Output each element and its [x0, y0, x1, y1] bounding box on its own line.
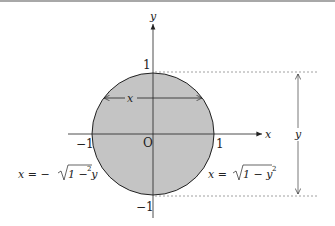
svg-text:2: 2	[272, 165, 276, 173]
tick-neg-y: −1	[136, 200, 154, 214]
left-equation: x = − 1 − y 2	[18, 165, 98, 181]
chord-label: x	[127, 92, 134, 105]
svg-text:x = −: x = −	[18, 168, 50, 181]
tick-neg-x: −1	[76, 137, 94, 151]
right-equation: x = 1 − y 2	[208, 165, 276, 181]
height-label: y	[294, 128, 302, 141]
x-axis-label: x	[265, 128, 272, 141]
tick-pos-y: 1	[143, 58, 151, 72]
unit-circle-diagram: y x O 1 −1 1 −1 x y x = − 1 − y 2 x = 1 …	[0, 0, 335, 226]
tick-pos-x: 1	[216, 137, 224, 151]
svg-text:1 − y: 1 − y	[68, 168, 98, 181]
origin-label: O	[143, 136, 153, 150]
svg-text:2: 2	[87, 165, 91, 173]
y-axis-label: y	[149, 10, 157, 23]
svg-text:x =: x =	[208, 168, 227, 181]
svg-text:1 − y: 1 − y	[243, 168, 273, 181]
